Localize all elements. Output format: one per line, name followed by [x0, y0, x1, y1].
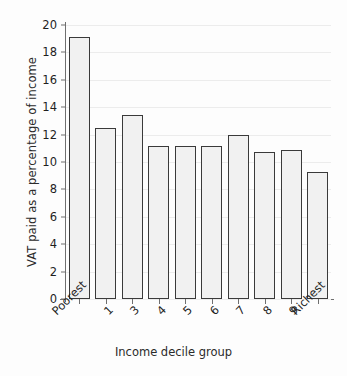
y-tick-mark — [61, 271, 66, 272]
bar — [148, 146, 169, 299]
x-tick-mark — [79, 299, 80, 304]
x-tick-label: 6 — [207, 303, 222, 318]
bar — [201, 146, 222, 299]
bar — [95, 128, 116, 299]
x-tick-label: 8 — [260, 303, 275, 318]
y-tick-mark — [61, 107, 66, 108]
y-tick-mark — [61, 79, 66, 80]
y-tick-mark — [61, 52, 66, 53]
y-tick-mark — [61, 189, 66, 190]
gridline — [66, 107, 331, 108]
bar — [228, 135, 249, 299]
x-tick-label: 4 — [154, 303, 169, 318]
x-axis-title: Income decile group — [0, 345, 347, 359]
vat-by-income-decile-bar-chart: VAT paid as a percentage of income 02468… — [0, 0, 347, 376]
gridline — [66, 52, 331, 53]
bar — [175, 146, 196, 299]
x-tick-label: 7 — [233, 303, 248, 318]
y-tick-mark — [61, 25, 66, 26]
x-tick-mark — [318, 299, 319, 304]
bar — [254, 152, 275, 299]
bar — [281, 150, 302, 299]
gridline — [66, 25, 331, 26]
gridline — [66, 80, 331, 81]
y-tick-mark — [61, 216, 66, 217]
bar — [122, 115, 143, 299]
y-tick-mark — [61, 162, 66, 163]
plot-area: 02468101214161820 — [66, 25, 331, 299]
x-tick-label: 3 — [127, 303, 142, 318]
y-tick-mark — [61, 134, 66, 135]
bar — [69, 37, 90, 299]
x-tick-label: 5 — [180, 303, 195, 318]
y-axis-title: VAT paid as a percentage of income — [25, 37, 39, 287]
x-tick-label: 1 — [101, 303, 116, 318]
y-tick-mark — [61, 244, 66, 245]
